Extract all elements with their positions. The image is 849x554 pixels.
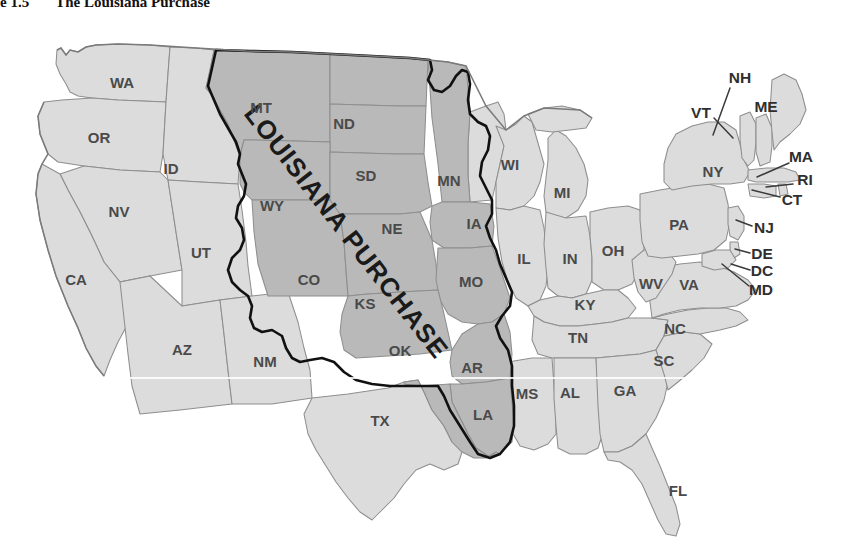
- state-label-ma: MA: [789, 148, 813, 165]
- figure-number: e 1.5: [0, 0, 29, 11]
- state-label-nh: NH: [729, 69, 751, 86]
- state-label-tn: TN: [568, 329, 588, 346]
- state-label-vt: VT: [691, 104, 711, 121]
- state-label-ne: NE: [382, 220, 403, 237]
- state-label-va: VA: [679, 276, 699, 293]
- figure-title: The Louisiana Purchase: [55, 0, 210, 11]
- state-ia[interactable]: [430, 202, 494, 248]
- figure-container: e 1.5The Louisiana Purchase: [0, 0, 849, 554]
- state-nj[interactable]: [728, 206, 744, 240]
- scanline-artifact: [0, 377, 849, 379]
- state-label-ca: CA: [65, 271, 87, 288]
- state-label-sd: SD: [356, 167, 377, 184]
- state-label-nv: NV: [109, 203, 130, 220]
- state-al[interactable]: [554, 358, 602, 454]
- state-label-ar: AR: [461, 359, 483, 376]
- state-label-ut: UT: [191, 244, 211, 261]
- state-label-la: LA: [473, 406, 493, 423]
- state-label-ga: GA: [614, 382, 637, 399]
- state-label-mt: MT: [250, 99, 272, 116]
- state-label-ct: CT: [782, 191, 803, 208]
- state-label-wy: WY: [260, 197, 284, 214]
- state-label-wv: WV: [639, 275, 663, 292]
- state-label-de: DE: [751, 245, 773, 262]
- state-label-md: MD: [749, 281, 773, 298]
- state-nh[interactable]: [756, 114, 772, 166]
- state-label-or: OR: [88, 129, 111, 146]
- state-label-ia: IA: [467, 215, 482, 232]
- state-label-in: IN: [563, 250, 578, 267]
- state-label-nj: NJ: [754, 219, 774, 236]
- state-label-al: AL: [560, 384, 580, 401]
- state-label-mo: MO: [459, 273, 483, 290]
- state-label-pa: PA: [669, 216, 689, 233]
- state-label-me: ME: [754, 98, 777, 115]
- state-nm[interactable]: [220, 292, 312, 404]
- state-label-fl: FL: [669, 482, 687, 499]
- state-label-tx: TX: [370, 412, 389, 429]
- state-label-wa: WA: [110, 74, 134, 91]
- state-label-nd: ND: [333, 115, 355, 132]
- state-label-mi: MI: [554, 184, 571, 201]
- state-label-il: IL: [517, 250, 530, 267]
- state-nd[interactable]: [330, 54, 428, 106]
- state-label-ri: RI: [797, 171, 813, 188]
- state-md[interactable]: [702, 250, 736, 270]
- state-label-ny: NY: [703, 163, 724, 180]
- state-mi[interactable]: [544, 130, 588, 220]
- state-label-ky: KY: [575, 296, 596, 313]
- state-label-ok: OK: [389, 342, 412, 359]
- state-vt[interactable]: [740, 112, 756, 166]
- united-states-map[interactable]: LOUISIANA PURCHASE MTNDSDMNWYNEIACOKSMOO…: [0, 14, 849, 554]
- state-label-id: ID: [164, 160, 179, 177]
- state-label-oh: OH: [602, 242, 625, 259]
- state-label-ms: MS: [516, 385, 539, 402]
- state-label-dc: DC: [751, 262, 773, 279]
- state-label-nm: NM: [253, 353, 276, 370]
- state-label-ks: KS: [355, 295, 376, 312]
- map-area: LOUISIANA PURCHASE MTNDSDMNWYNEIACOKSMOO…: [0, 14, 849, 554]
- state-label-wi: WI: [501, 156, 519, 173]
- state-label-nc: NC: [664, 320, 686, 337]
- leader-line-dc: [731, 264, 750, 270]
- state-label-co: CO: [298, 271, 321, 288]
- state-label-sc: SC: [654, 352, 675, 369]
- state-label-mn: MN: [437, 172, 460, 189]
- state-label-az: AZ: [172, 341, 192, 358]
